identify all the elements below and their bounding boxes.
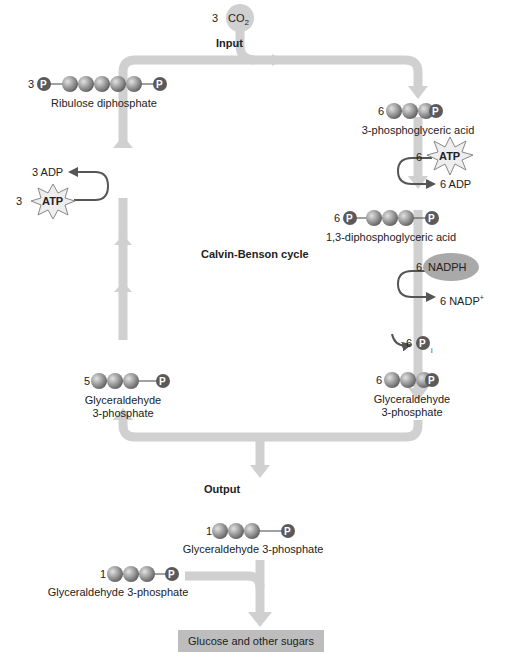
dpga-label: 1,3-diphosphoglyceric acid xyxy=(326,231,456,244)
pga-count: 6 xyxy=(378,105,384,117)
phosphate-label: P xyxy=(156,78,163,91)
adp-left-label: 3 ADP xyxy=(32,166,63,179)
pi-count: 6 xyxy=(406,337,412,349)
phosphate-label: P xyxy=(428,212,435,225)
co2-count: 3 xyxy=(212,12,218,24)
dpga-count: 6 xyxy=(334,212,340,224)
output-label: Output xyxy=(204,483,240,496)
co2-label: CO2 xyxy=(228,12,249,29)
nadph-count: 6 xyxy=(416,261,422,273)
g3p-right-label-line1: Glyceraldehyde xyxy=(374,393,450,406)
phosphate-label: P xyxy=(346,212,353,225)
phosphate-label: P xyxy=(159,375,166,388)
g3p-left-label-line1: Glyceraldehyde xyxy=(85,394,161,407)
ribulose-molecule xyxy=(37,76,167,92)
glucose-product-box: Glucose and other sugars xyxy=(178,630,324,652)
g3p-left-count: 5 xyxy=(84,375,90,387)
dpga-molecule xyxy=(343,210,439,226)
atp-left-count: 3 xyxy=(16,195,22,207)
atp-right-label: ATP xyxy=(439,150,460,163)
diagram-title: Calvin-Benson cycle xyxy=(201,248,309,261)
ribulose-count: 3 xyxy=(28,78,34,90)
pi-label: P xyxy=(419,337,426,350)
g3p-right-count: 6 xyxy=(376,374,382,386)
pga-label: 3-phosphoglyceric acid xyxy=(362,124,475,137)
phosphate-label: P xyxy=(432,105,439,118)
g3p-right-label-line2: 3-phosphate xyxy=(381,406,442,419)
phosphate-label: P xyxy=(168,568,175,581)
calvin-cycle-diagram: P P P P P P P P P 3 CO2 Input 3 Ribulose… xyxy=(0,0,506,657)
atp-left-label: ATP xyxy=(42,195,63,208)
g3p-output2-count: 1 xyxy=(100,568,106,580)
flow-arrowheads xyxy=(113,54,428,627)
nadp-label: 6 NADP+ xyxy=(440,291,484,308)
g3p-output1-count: 1 xyxy=(206,525,212,537)
g3p-output1-label: Glyceraldehyde 3-phosphate xyxy=(183,543,324,556)
cycle-flow-arrows xyxy=(123,20,418,612)
g3p-output1-molecule xyxy=(212,523,295,539)
input-label: Input xyxy=(216,37,243,50)
pi-subscript: i xyxy=(431,344,433,357)
ribulose-label: Ribulose diphosphate xyxy=(51,97,157,110)
phosphate-label: P xyxy=(40,78,47,91)
phosphate-label: P xyxy=(428,374,435,387)
g3p-left-label-line2: 3-phosphate xyxy=(92,407,153,420)
g3p-output2-label: Glyceraldehyde 3-phosphate xyxy=(48,586,189,599)
adp-right-label: 6 ADP xyxy=(440,178,471,191)
nadph-label: NADPH xyxy=(428,261,467,274)
phosphate-label: P xyxy=(284,525,291,538)
atp-right-count: 6 xyxy=(416,151,422,163)
